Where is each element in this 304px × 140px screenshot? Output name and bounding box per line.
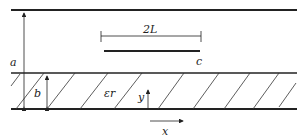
- label-2L: 2L: [143, 24, 157, 35]
- label-x: x: [162, 126, 168, 137]
- label-c: c: [196, 56, 202, 67]
- dielectric-hatching: [11, 73, 296, 109]
- label-epsilon-r: εr: [104, 88, 115, 99]
- label-a: a: [10, 57, 17, 68]
- diagram-canvas: [0, 0, 304, 140]
- label-y: y: [138, 92, 144, 103]
- label-b: b: [34, 88, 41, 99]
